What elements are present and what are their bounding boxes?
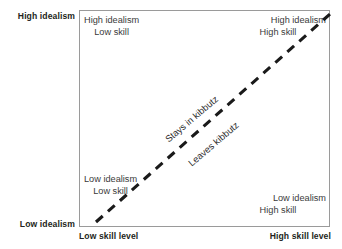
quadrant-top-right-line-1: High idealism <box>230 14 326 26</box>
axis-label-high-idealism: High idealism <box>0 11 75 21</box>
quadrant-bottom-left: Low idealism Low skill <box>84 173 137 198</box>
quadrant-bottom-right: Low idealism High skill <box>230 192 326 217</box>
quadrant-bottom-left-line-2: Low skill <box>84 185 137 197</box>
quadrant-top-left: High idealism Low skill <box>84 14 139 39</box>
quadrant-diagram: High idealism Low idealism Low skill lev… <box>0 0 342 249</box>
axis-label-high-skill-level: High skill level <box>0 231 331 241</box>
quadrant-top-right: High idealism High skill <box>230 14 326 39</box>
quadrant-top-right-line-2: High skill <box>230 26 326 38</box>
quadrant-top-left-line-2: Low skill <box>84 26 139 38</box>
axis-label-low-idealism: Low idealism <box>0 219 75 229</box>
quadrant-bottom-right-line-2: High skill <box>230 204 326 216</box>
quadrant-bottom-right-line-1: Low idealism <box>230 192 326 204</box>
quadrant-bottom-left-line-1: Low idealism <box>84 173 137 185</box>
quadrant-top-left-line-1: High idealism <box>84 14 139 26</box>
